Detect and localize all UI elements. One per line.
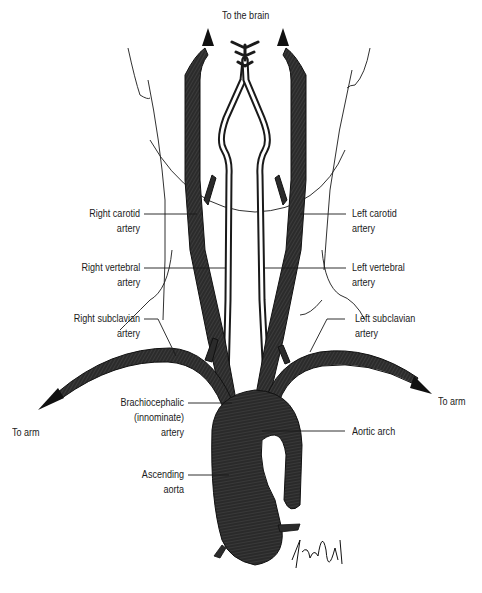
label-right-carotid-line2: artery: [89, 221, 140, 236]
label-left-carotid-line1: Left carotid: [352, 206, 397, 221]
label-left-subclavian: Left subclavian artery: [355, 311, 415, 341]
leader-left-subclavian: [310, 319, 345, 352]
label-right-carotid: Right carotid artery: [89, 206, 140, 236]
left-subclavian-artery: [262, 345, 432, 412]
label-brachiocephalic-line1: Brachiocephalic: [120, 395, 184, 410]
label-to-brain: To the brain: [222, 8, 269, 23]
label-brachiocephalic-line3: artery: [120, 425, 184, 440]
diagram-canvas: [0, 0, 482, 593]
neck-outline-left-upper: [128, 48, 150, 99]
label-to-arm-right: To arm: [438, 394, 466, 409]
right-vertebral-artery: [221, 60, 245, 380]
label-right-vertebral-line2: artery: [81, 275, 140, 290]
label-right-vertebral-line1: Right vertebral: [81, 260, 140, 275]
label-ascending-aorta: Ascending aorta: [142, 467, 184, 497]
aorta: [212, 390, 302, 565]
neck-outline-right-inner: [324, 70, 352, 270]
mandible-curve: [150, 140, 345, 212]
external-carotid-branch-right: [204, 175, 216, 205]
artist-signature: [292, 540, 342, 568]
label-left-vertebral-line1: Left vertebral: [352, 260, 405, 275]
label-brachiocephalic-line2: (innominate): [120, 410, 184, 425]
label-right-vertebral: Right vertebral artery: [81, 260, 140, 290]
label-left-subclavian-line2: artery: [355, 326, 415, 341]
label-right-subclavian-line1: Right subclavian: [74, 311, 140, 326]
label-left-subclavian-line1: Left subclavian: [355, 311, 415, 326]
label-ascending-aorta-line2: aorta: [142, 482, 184, 497]
external-carotid-branch-left: [275, 175, 287, 205]
pulmonary-stub-right: [278, 524, 300, 532]
label-brachiocephalic: Brachiocephalic (innominate) artery: [120, 395, 184, 440]
label-left-carotid-line2: artery: [352, 221, 397, 236]
pulmonary-stub-left: [214, 545, 226, 558]
left-arm-arrow-icon: [410, 376, 432, 394]
label-left-vertebral: Left vertebral artery: [352, 260, 405, 290]
label-right-carotid-line1: Right carotid: [89, 206, 140, 221]
neck-outline: [120, 48, 370, 330]
neck-outline-left-inner: [148, 80, 165, 320]
label-left-vertebral-line2: artery: [352, 275, 405, 290]
right-carotid-arrow-icon: [202, 28, 214, 46]
left-carotid-arrow-icon: [277, 28, 289, 46]
label-aortic-arch: Aortic arch: [352, 424, 395, 439]
label-ascending-aorta-line1: Ascending: [142, 467, 184, 482]
artery-diagram: To the brain Right carotid artery Left c…: [0, 0, 482, 593]
clavicle-line-right: [300, 300, 322, 315]
label-right-subclavian-line2: artery: [74, 326, 140, 341]
label-to-arm-left: To arm: [12, 425, 40, 440]
label-right-subclavian: Right subclavian artery: [74, 311, 140, 341]
neck-outline-right-upper: [347, 48, 370, 88]
label-left-carotid: Left carotid artery: [352, 206, 397, 236]
